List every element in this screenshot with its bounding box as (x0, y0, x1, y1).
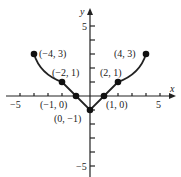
point-0-neg1 (87, 107, 94, 114)
point-label-1-0: (1, 0) (106, 99, 128, 111)
x-axis-label: x (169, 83, 175, 94)
point-neg2-1 (59, 79, 66, 86)
x-tick-label-5: 5 (156, 99, 161, 110)
graph-figure: y x −5 5 5 −5 (−4, 3) (−2, 1) (−1, 0) (0… (0, 0, 181, 177)
point-4-3 (143, 51, 150, 58)
point-neg1-0 (73, 93, 80, 100)
x-tick-label-neg5: −5 (10, 99, 21, 110)
point-label-2-1: (2, 1) (100, 67, 122, 79)
point-2-1 (115, 79, 122, 86)
point-label-4-3: (4, 3) (114, 48, 136, 60)
point-label-neg2-1: (−2, 1) (52, 67, 79, 79)
x-axis (6, 93, 176, 99)
point-label-neg4-3: (−4, 3) (39, 48, 66, 60)
y-axis (87, 8, 95, 177)
point-neg4-3 (31, 51, 38, 58)
point-label-neg1-0: (−1, 0) (40, 99, 67, 111)
y-tick-label-neg5: −5 (76, 161, 87, 172)
y-tick-label-5: 5 (82, 21, 87, 32)
coordinate-plane: y x −5 5 5 −5 (−4, 3) (−2, 1) (−1, 0) (0… (0, 0, 181, 177)
point-label-0-neg1: (0, −1) (54, 113, 81, 125)
y-axis-label: y (79, 6, 85, 17)
